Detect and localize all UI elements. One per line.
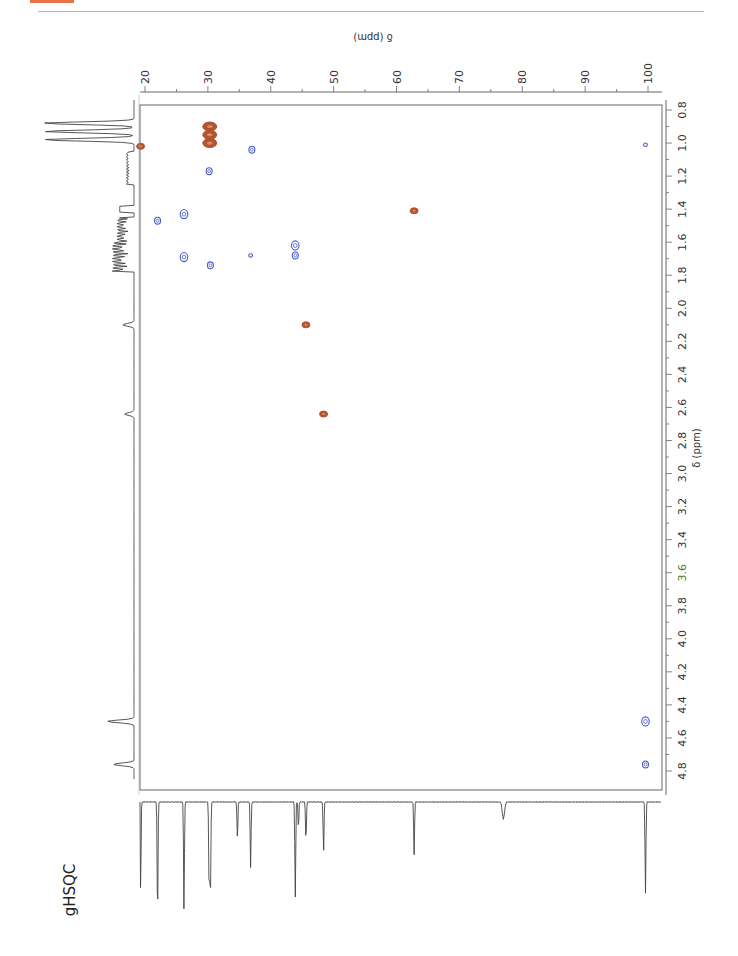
- proton-axis-label: δ (ppm): [691, 428, 702, 468]
- cross-peak-negative: [642, 761, 648, 768]
- chart-title: gHSQC: [61, 864, 79, 917]
- proton-tick-label: 1.4: [676, 200, 689, 218]
- cross-peak-inner-contour: [182, 255, 186, 259]
- proton-tick-label: 1.0: [676, 134, 689, 152]
- cross-peak-negative: [206, 168, 212, 175]
- cross-peak-inner-contour: [644, 719, 648, 723]
- cross-peak-negative: [249, 146, 255, 153]
- cross-peak-core: [207, 141, 213, 144]
- cross-peak-negative: [249, 254, 253, 257]
- proton-tick-label: 1.2: [676, 167, 689, 185]
- cross-peak-core: [304, 324, 307, 326]
- proton-tick-label: 3.0: [676, 465, 689, 483]
- cross-peak-negative: [180, 252, 188, 261]
- proton-axis: 0.81.01.21.41.61.82.02.22.42.62.83.03.23…: [666, 100, 689, 795]
- cross-peak-inner-contour: [209, 264, 212, 267]
- cross-peak-inner-contour: [644, 763, 647, 766]
- proton-tick-label: 2.2: [676, 333, 689, 351]
- carbon-tick-label: 60: [391, 70, 404, 84]
- proton-tick-label: 4.6: [676, 729, 689, 747]
- proton-tick-label: 4.0: [676, 630, 689, 648]
- proton-tick-label: 4.2: [676, 663, 689, 681]
- proton-tick-label: 2.0: [676, 300, 689, 318]
- carbon-tick-label: 100: [642, 63, 655, 84]
- carbon-tick-label: 20: [139, 70, 152, 84]
- cross-peak-inner-contour: [208, 170, 211, 173]
- cross-peak-negative: [180, 210, 188, 219]
- cross-peak-inner-contour: [294, 254, 297, 257]
- carbon-axis-label: δ (ppm): [353, 32, 393, 43]
- proton-tick-label: 1.6: [676, 233, 689, 251]
- cross-peak-inner-contour: [294, 244, 298, 248]
- cross-peak-core: [413, 210, 416, 212]
- proton-tick-label: 4.8: [676, 762, 689, 780]
- cross-peak-negative: [292, 252, 298, 259]
- hsqc-chart: δ (ppm) 2030405060708090100 0.81.01.21.4…: [0, 0, 738, 956]
- cross-peak-core: [207, 133, 213, 136]
- proton-projection: [45, 100, 134, 779]
- proton-tick-label: 2.6: [676, 399, 689, 417]
- carbon-axis: 2030405060708090100: [139, 63, 662, 92]
- cross-peak-inner-contour: [182, 212, 186, 216]
- carbon-tick-label: 70: [453, 70, 466, 84]
- proton-tick-label: 3.8: [676, 597, 689, 615]
- carbon-tick-label: 30: [202, 70, 215, 84]
- carbon-projection: [140, 802, 661, 909]
- proton-tick-label: 3.2: [676, 498, 689, 515]
- proton-tick-label: 3.4: [676, 531, 689, 549]
- cross-peak-negative: [155, 217, 161, 224]
- carbon-tick-label: 50: [328, 70, 341, 84]
- proton-tick-label: 3.6: [676, 564, 689, 582]
- proton-tick-label: 2.4: [676, 366, 689, 384]
- cross-peak-inner-contour: [250, 148, 253, 151]
- cross-peak-negative: [644, 143, 648, 146]
- proton-tick-label: 2.8: [676, 432, 689, 450]
- cross-peaks: [137, 122, 650, 768]
- proton-tick-label: 1.8: [676, 267, 689, 285]
- cross-peak-negative: [292, 241, 300, 250]
- carbon-tick-label: 90: [579, 70, 592, 84]
- cross-peak-negative: [207, 262, 213, 269]
- cross-peak-core: [139, 145, 142, 147]
- cross-peak-negative: [642, 717, 650, 726]
- proton-tick-label: 4.4: [676, 696, 689, 714]
- cross-peak-core: [207, 125, 213, 128]
- plot-frame: [140, 105, 662, 790]
- cross-peak-core: [322, 413, 325, 415]
- carbon-tick-label: 80: [516, 70, 529, 84]
- cross-peak-inner-contour: [156, 219, 159, 222]
- proton-tick-label: 0.8: [676, 101, 689, 119]
- carbon-tick-label: 40: [265, 70, 278, 84]
